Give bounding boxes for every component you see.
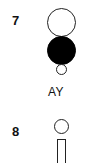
small-open-circle-icon: [54, 119, 69, 134]
large-open-circle-icon: [47, 8, 76, 37]
open-rectangle-icon: [57, 139, 66, 163]
large-filled-circle-icon: [47, 36, 76, 65]
small-open-circle-icon: [56, 64, 67, 75]
figure-number: 7: [12, 14, 19, 27]
figure-number: 8: [12, 125, 19, 138]
figure-label: AY: [48, 86, 64, 98]
